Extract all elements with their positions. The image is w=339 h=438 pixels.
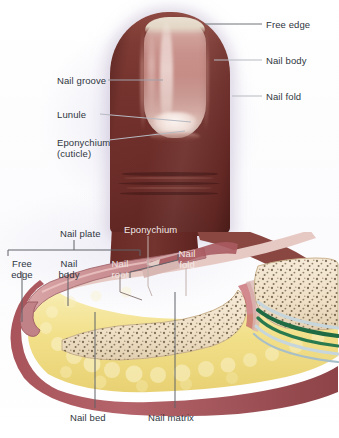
label-nail-root-line2: root xyxy=(112,269,129,280)
label-nail-groove-surface: Nail groove xyxy=(57,75,106,86)
label-nail-fold-line1: Nail xyxy=(179,248,196,259)
label-nail-fold-section: Nail fold xyxy=(170,248,204,270)
skin-crease-highlight xyxy=(124,177,214,179)
label-free-edge-section: Free edge xyxy=(2,258,42,280)
label-nail-body-line2: body xyxy=(58,269,79,280)
label-lunule-surface: Lunule xyxy=(57,109,86,120)
label-nail-body-section: Nail body xyxy=(50,258,88,280)
label-nail-root-section: Nail root xyxy=(103,258,137,280)
label-nail-body-surface: Nail body xyxy=(266,55,307,66)
label-eponychium-surface: Eponychium (cuticle) xyxy=(57,137,123,159)
label-nail-body-line1: Nail xyxy=(61,258,78,269)
label-nail-plate-bracket: Nail plate xyxy=(60,228,101,239)
label-nail-matrix-section: Nail matrix xyxy=(148,412,194,423)
label-nail-root-line1: Nail xyxy=(112,258,129,269)
eponychium-region xyxy=(150,132,200,141)
label-nail-bed-section: Nail bed xyxy=(70,412,106,423)
fingertip-surface-view xyxy=(104,4,236,236)
label-eponychium-line1: Eponychium xyxy=(57,137,110,148)
label-free-edge-line2: edge xyxy=(11,269,33,280)
label-free-edge-line1: Free xyxy=(12,258,32,269)
nail-free-edge-surface xyxy=(145,17,205,34)
label-nail-fold-surface: Nail fold xyxy=(266,91,301,102)
skin-crease xyxy=(122,172,218,176)
skin-crease xyxy=(118,182,220,185)
skin-crease xyxy=(120,192,218,195)
label-free-edge-surface: Free edge xyxy=(266,19,310,30)
label-nail-fold-line2: fold xyxy=(179,259,195,270)
label-eponychium-section: Eponychium xyxy=(124,224,177,235)
nail-highlight-secondary xyxy=(148,30,155,116)
skin-crease-highlight xyxy=(126,187,212,189)
nail-anatomy-figure: Free edge Nail body Nail fold Nail groov… xyxy=(0,0,339,438)
label-eponychium-line2: (cuticle) xyxy=(57,148,91,159)
